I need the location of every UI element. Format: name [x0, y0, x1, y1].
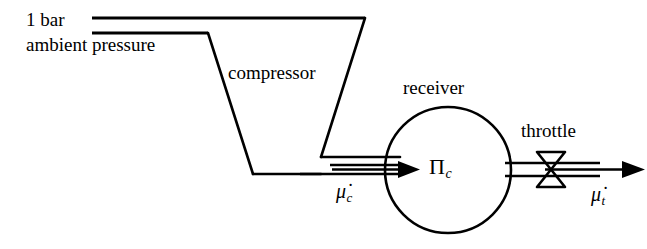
compressor-mass-flow-symbol: μ̇c — [336, 181, 352, 204]
receiver-label: receiver — [403, 78, 464, 97]
receiver-pressure-symbol: Πc — [429, 156, 452, 181]
throttle-mass-flow-symbol: μ̇t — [591, 184, 605, 207]
inlet-flow-arrow-head — [398, 161, 420, 178]
compressor-label: compressor — [228, 63, 316, 82]
mu-subscript-throttle: t — [602, 193, 606, 208]
compressor-right-edge — [321, 18, 365, 157]
throttle-valve-upper-triangle — [537, 152, 565, 170]
pneumatic-system-diagram: 1 bar ambient pressure compressor receiv… — [0, 0, 647, 249]
throttle-valve-lower-triangle — [537, 170, 565, 188]
compressor-left-edge — [208, 33, 253, 174]
throttle-label: throttle — [521, 121, 576, 140]
mu-dot-symbol-compressor: μ̇ — [336, 180, 346, 202]
ambient-pressure-label: ambient pressure — [26, 35, 155, 54]
outlet-flow-arrow-head — [622, 161, 645, 178]
pi-symbol: Π — [429, 154, 445, 179]
pi-subscript: c — [445, 166, 451, 181]
mu-dot-symbol-throttle: μ̇ — [591, 183, 601, 205]
mu-subscript-compressor: c — [347, 190, 353, 205]
ambient-pressure-value-label: 1 bar — [26, 10, 65, 29]
